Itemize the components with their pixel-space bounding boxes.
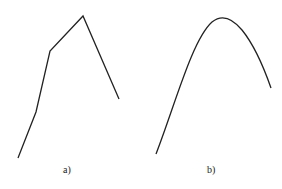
panel-a-label: a) (63, 164, 71, 175)
diagram-canvas (0, 0, 282, 189)
panel-b-label: b) (207, 164, 215, 175)
panel-a-polyline (18, 16, 119, 158)
panel-b-curve (156, 18, 271, 154)
